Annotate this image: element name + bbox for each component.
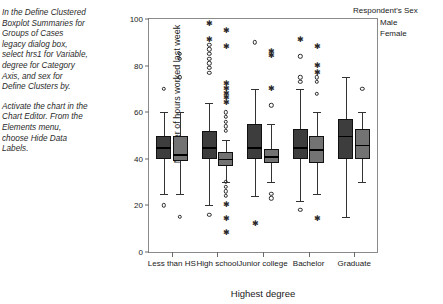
outlier-point: [207, 70, 211, 74]
median-line: [264, 156, 279, 158]
whisker-cap: [342, 217, 350, 218]
whisker-cap: [251, 196, 259, 197]
outlier-point: [269, 103, 273, 107]
extreme-outlier-point: ✱: [297, 37, 303, 43]
median-line: [338, 136, 353, 138]
whisker-cap: [205, 205, 213, 206]
outlier-point: [161, 203, 165, 207]
box: [247, 124, 262, 159]
outlier-point: [315, 91, 319, 95]
median-line: [355, 145, 370, 147]
whisker-cap: [176, 194, 184, 195]
median-line: [218, 159, 233, 161]
box: [293, 129, 308, 159]
y-tick-mark: [145, 112, 149, 113]
plot-area: Number of hours worked last week Highest…: [148, 18, 378, 253]
extreme-outlier-point: ✱: [314, 44, 320, 50]
extreme-outlier-point: ✱: [268, 86, 274, 92]
whisker-cap: [296, 201, 304, 202]
x-tick-mark: [217, 252, 218, 257]
y-tick-mark: [145, 158, 149, 159]
instruction-text: In the Define Clustered Boxplot Summarie…: [2, 8, 88, 164]
legend-label-male: Male: [380, 18, 397, 27]
whisker-cap: [160, 112, 168, 113]
extreme-outlier-point: ✱: [206, 21, 212, 27]
legend-label-female: Female: [380, 29, 407, 38]
whisker-cap: [313, 112, 321, 113]
whisker-cap: [358, 112, 366, 113]
extreme-outlier-point: ✱: [223, 230, 229, 236]
median-line: [309, 149, 324, 151]
box: [202, 131, 217, 159]
whisker-cap: [205, 103, 213, 104]
extreme-outlier-point: ✱: [223, 100, 229, 106]
whisker-cap: [176, 112, 184, 113]
whisker-cap: [251, 89, 259, 90]
outlier-point: [315, 80, 319, 84]
median-line: [202, 147, 217, 149]
extreme-outlier-point: ✱: [223, 28, 229, 34]
outlier-point: [298, 80, 302, 84]
instruction-paragraph-2: Activate the chart in the Chart Editor. …: [2, 102, 88, 155]
y-tick-mark: [145, 65, 149, 66]
x-tick-mark: [354, 252, 355, 257]
extreme-outlier-point: ✱: [268, 53, 274, 59]
x-tick-mark: [263, 252, 264, 257]
whisker-cap: [222, 140, 230, 141]
outlier-point: [298, 54, 302, 58]
y-tick-mark: [145, 252, 149, 253]
whisker-cap: [296, 89, 304, 90]
x-tick-label: Graduate: [326, 259, 382, 269]
outlier-point: [178, 215, 182, 219]
x-tick-mark: [172, 252, 173, 257]
chart-container: Respondent's Sex Male Female Number of h…: [96, 0, 443, 304]
x-axis-label: Highest degree: [149, 288, 377, 299]
outlier-point: [298, 208, 302, 212]
extreme-outlier-point: ✱: [314, 216, 320, 222]
whisker-cap: [267, 182, 275, 183]
median-line: [293, 147, 308, 149]
box: [355, 129, 370, 159]
box: [173, 136, 188, 162]
legend-title: Respondent's Sex: [353, 6, 439, 15]
y-tick-mark: [145, 19, 149, 20]
outlier-point: [360, 87, 364, 91]
extreme-outlier-point: ✱: [223, 216, 229, 222]
whisker-cap: [358, 182, 366, 183]
box: [338, 119, 353, 159]
extreme-outlier-point: ✱: [206, 37, 212, 43]
outlier-point: [223, 194, 227, 198]
instruction-paragraph-1: In the Define Clustered Boxplot Summarie…: [2, 8, 88, 93]
median-line: [247, 147, 262, 149]
x-tick-mark: [309, 252, 310, 257]
whisker-cap: [313, 194, 321, 195]
outlier-point: [253, 40, 257, 44]
extreme-outlier-point: ✱: [252, 221, 258, 227]
y-tick-mark: [145, 205, 149, 206]
median-line: [173, 154, 188, 156]
extreme-outlier-point: ✱: [223, 44, 229, 50]
outlier-point: [269, 196, 273, 200]
extreme-outlier-point: ✱: [223, 202, 229, 208]
outlier-point: [161, 87, 165, 91]
whisker-cap: [342, 77, 350, 78]
outlier-point: [223, 129, 227, 133]
boxplot-figure: In the Define Clustered Boxplot Summarie…: [0, 0, 443, 304]
whisker-cap: [267, 124, 275, 125]
extreme-outlier-point: ✱: [314, 70, 320, 76]
outlier-point: [207, 213, 211, 217]
whisker-cap: [160, 194, 168, 195]
median-line: [156, 147, 171, 149]
